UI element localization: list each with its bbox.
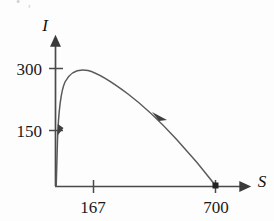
x-tick-label-167: 167 xyxy=(80,198,106,217)
x-tick-label-700: 700 xyxy=(203,198,229,217)
x-axis: S 167 700 xyxy=(55,172,267,217)
y-tick-label-150: 150 xyxy=(17,122,43,141)
y-axis-label: I xyxy=(41,16,49,35)
sir-trajectory-path xyxy=(56,70,215,186)
flow-direction-arrows xyxy=(58,112,168,136)
phase-plane-plot: I 300 150 S 167 700 xyxy=(0,0,274,221)
y-axis: I 300 150 xyxy=(17,16,64,186)
trajectory-curve xyxy=(56,70,215,186)
y-tick-label-300: 300 xyxy=(17,60,43,79)
x-axis-label: S xyxy=(258,172,267,191)
figure-container: • ‚ I 300 150 S 167 700 xyxy=(0,0,274,221)
endpoint-marker-700 xyxy=(213,183,219,189)
